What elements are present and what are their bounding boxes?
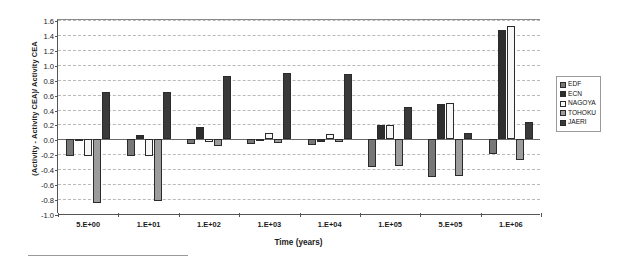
y-axis-tick-label: 1.4 [43,31,54,40]
chart-figure: (Activity - Activity CEA)/ Activity CEA … [0,0,627,268]
bar-edf[interactable] [66,20,74,213]
bar-tohoku[interactable] [93,20,101,213]
bar-nagoya[interactable] [145,20,153,213]
x-axis-tick-mark [239,213,240,217]
bar-tohoku[interactable] [214,20,222,213]
bar-rect [247,139,255,143]
y-axis-tick-label: 0.2 [43,121,54,130]
bar-rect [75,139,83,141]
bar-jaeri[interactable] [344,20,352,213]
y-axis-tick-label: 0.6 [43,91,54,100]
bar-rect [274,139,282,143]
bar-nagoya[interactable] [386,20,394,213]
bar-rect [136,135,144,139]
legend-item-nagoya[interactable]: NAGOYA [560,99,596,108]
bar-rect [308,139,316,145]
bar-rect [525,122,533,139]
legend-item-ecn[interactable]: ECN [560,90,596,99]
bar-tohoku[interactable] [274,20,282,213]
legend-item-tohoku[interactable]: TOHOKU [560,109,596,118]
bar-rect [335,139,343,142]
x-axis-tick-mark [118,213,119,217]
legend-swatch-icon [560,82,566,88]
bar-rect [102,92,110,140]
caption-divider [28,255,188,256]
bar-rect [326,134,334,139]
bar-group: 1.E+06 [481,20,541,213]
bar-edf[interactable] [428,20,436,213]
legend-label: NAGOYA [568,100,596,107]
bar-rect [154,139,162,200]
bar-jaeri[interactable] [464,20,472,213]
x-axis-tick-label: 5.E+00 [76,220,100,229]
x-axis-tick-mark [300,213,301,217]
x-axis-tick-label: 1.E+01 [137,220,161,229]
plot-inner: 1.61.41.21.00.80.60.40.20.0-0.2-0.4-0.6-… [58,20,540,213]
bar-nagoya[interactable] [507,20,515,213]
bar-jaeri[interactable] [283,20,291,213]
x-axis-tick-label: 1.E+06 [499,220,523,229]
x-axis-tick-label: 1.E+05 [378,220,402,229]
bar-rect [84,139,92,155]
bar-group: 1.E+05 [360,20,420,213]
legend-swatch-icon [560,101,566,107]
bar-nagoya[interactable] [446,20,454,213]
bar-nagoya[interactable] [205,20,213,213]
bar-rect [489,139,497,154]
bar-edf[interactable] [247,20,255,213]
y-axis-title: (Activity - Activity CEA)/ Activity CEA [30,0,39,219]
bar-edf[interactable] [187,20,195,213]
bar-group: 1.E+04 [300,20,360,213]
y-axis-tick-label: 0.4 [43,106,54,115]
bar-ecn[interactable] [317,20,325,213]
bar-edf[interactable] [489,20,497,213]
bar-ecn[interactable] [196,20,204,213]
bar-rect [127,139,135,155]
bar-rect [437,104,445,139]
bar-tohoku[interactable] [455,20,463,213]
bar-group: 1.E+01 [118,20,178,213]
bar-nagoya[interactable] [84,20,92,213]
bar-tohoku[interactable] [516,20,524,213]
bar-ecn[interactable] [75,20,83,213]
bar-rect [446,103,454,140]
bar-group: 5.E+05 [420,20,480,213]
x-axis-tick-mark [481,213,482,217]
bar-jaeri[interactable] [525,20,533,213]
bar-rect [223,76,231,139]
bar-jaeri[interactable] [102,20,110,213]
bar-nagoya[interactable] [326,20,334,213]
bar-jaeri[interactable] [163,20,171,213]
bar-edf[interactable] [127,20,135,213]
bar-rect [93,139,101,202]
bar-ecn[interactable] [498,20,506,213]
bar-ecn[interactable] [256,20,264,213]
bar-ecn[interactable] [136,20,144,213]
bar-nagoya[interactable] [265,20,273,213]
bar-jaeri[interactable] [223,20,231,213]
bar-rect [205,139,213,142]
y-axis-tick-label: 0.0 [43,136,54,145]
bar-edf[interactable] [368,20,376,213]
bar-tohoku[interactable] [395,20,403,213]
x-axis-tick-mark [179,213,180,217]
bar-tohoku[interactable] [335,20,343,213]
legend-swatch-icon [560,91,566,97]
bar-rect [145,139,153,155]
bar-rect [516,139,524,159]
y-axis-tick-label: -0.8 [41,196,54,205]
x-axis-tick-mark [420,213,421,217]
y-axis-tick-label: -1.0 [41,211,54,220]
bar-tohoku[interactable] [154,20,162,213]
legend-item-edf[interactable]: EDF [560,80,596,89]
bar-group: 1.E+02 [179,20,239,213]
bar-rect [464,133,472,140]
bar-jaeri[interactable] [404,20,412,213]
bar-edf[interactable] [308,20,316,213]
x-axis-tick-mark [360,213,361,217]
bar-rect [377,125,385,139]
bar-rect [66,139,74,155]
legend-item-jaeri[interactable]: JAERI [560,118,596,127]
bar-ecn[interactable] [377,20,385,213]
bar-ecn[interactable] [437,20,445,213]
